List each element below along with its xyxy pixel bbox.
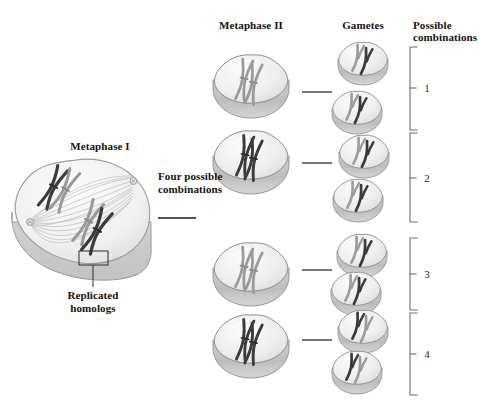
possible-combinations-label-line1: Possible	[413, 19, 452, 32]
metaphase-2-cell-3	[213, 243, 289, 306]
gamete-cell-4	[333, 179, 383, 222]
meiosis-diagram: Metaphase I Metaphase II Gametes Possibl…	[0, 0, 479, 413]
diagram-artwork	[0, 0, 479, 413]
metaphase-2-label: Metaphase II	[205, 19, 297, 32]
gametes-label: Gametes	[329, 19, 397, 32]
combination-number-2: 2	[420, 172, 434, 184]
gamete-cell-3	[339, 135, 389, 178]
combination-brackets	[410, 47, 417, 395]
gamete-cell-6	[331, 272, 381, 315]
gamete-cell-2	[332, 91, 382, 134]
four-possible-label-line2: combinations	[158, 183, 222, 196]
combination-number-4: 4	[420, 348, 434, 360]
gamete-cell-8	[332, 351, 382, 394]
combination-number-1: 1	[420, 82, 434, 94]
metaphase-2-cell-4	[213, 315, 289, 378]
centrosome-right	[130, 178, 137, 185]
gamete-cell-1	[338, 42, 388, 85]
four-possible-label-line1: Four possible	[158, 170, 222, 183]
metaphase-1-label: Metaphase I	[54, 140, 146, 153]
combination-number-3: 3	[420, 268, 434, 280]
centrosome-left	[27, 219, 34, 226]
gamete-cell-7	[338, 310, 388, 353]
metaphase-2-cell-2	[213, 131, 289, 194]
replicated-homologs-label-line2: homologs	[48, 302, 138, 315]
metaphase-1-cell	[12, 159, 151, 287]
replicated-homologs-label-line1: Replicated	[48, 289, 138, 302]
metaphase-2-cell-1	[213, 55, 289, 118]
gamete-cell-5	[337, 234, 387, 277]
possible-combinations-label-line2: combinations	[413, 31, 477, 44]
